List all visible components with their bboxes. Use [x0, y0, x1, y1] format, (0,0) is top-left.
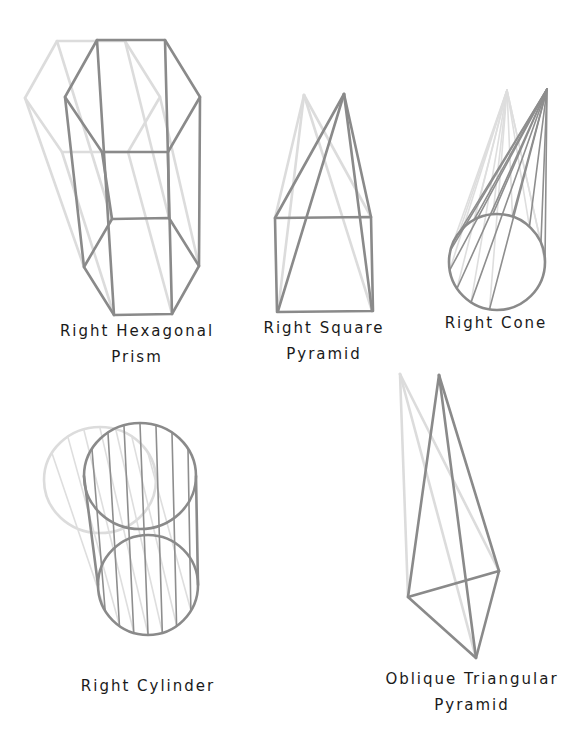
cone: Right Cone — [445, 89, 548, 332]
cylinder-ghost-generators — [52, 428, 191, 634]
hexagonal-prism: Right Hexagonal Prism — [25, 40, 214, 366]
cone-label: Right Cone — [445, 314, 548, 332]
bottom-hexagon — [84, 218, 199, 315]
triangular-base — [408, 571, 499, 658]
ghost-edge — [400, 374, 408, 597]
hexagonal-prism-label-line-2: Prism — [111, 348, 163, 366]
cylinder: Right Cylinder — [44, 423, 215, 695]
cone-ghost-generator — [459, 90, 507, 233]
square-pyramid-label-line-2: Pyramid — [286, 345, 362, 363]
square-pyramid: Right Square Pyramid — [263, 94, 384, 363]
geometric-solids-figure: Right Hexagonal Prism Right Square Pyram… — [0, 0, 581, 742]
ghost-edge — [304, 95, 372, 311]
triangular-pyramid-label-line-2: Pyramid — [434, 696, 510, 714]
lateral-edge — [408, 375, 439, 597]
square-pyramid-label-line-1: Right Square — [263, 319, 384, 337]
lateral-edge — [439, 375, 499, 571]
lateral-edge — [278, 94, 344, 311]
vertical-edge — [199, 97, 200, 266]
ghost-edge — [275, 95, 304, 218]
triangular-pyramid: Oblique Triangular Pyramid — [385, 374, 558, 714]
cylinder-generator — [188, 449, 191, 610]
cylinder-generator — [172, 433, 177, 625]
cylinder-generator — [156, 426, 162, 632]
vertical-edge — [165, 40, 172, 314]
cylinder-ghost-generator — [116, 430, 162, 632]
triangular-pyramid-label-line-1: Oblique Triangular — [385, 670, 558, 688]
triangular-pyramid-ghost — [400, 374, 499, 658]
ghost-edge — [400, 374, 476, 658]
hexagonal-prism-label-line-1: Right Hexagonal — [60, 322, 214, 340]
ghost-edge — [128, 152, 172, 314]
ghost-edge — [125, 41, 169, 218]
cylinder-label: Right Cylinder — [81, 677, 215, 695]
